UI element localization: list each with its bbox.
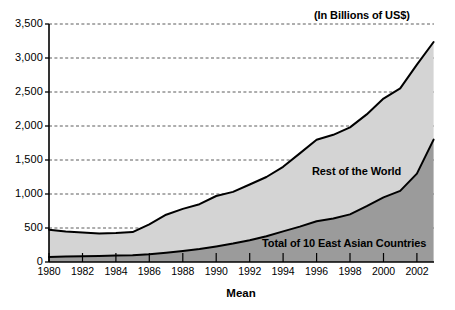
units-note: (In Billions of US$) (314, 10, 410, 21)
series-label-total-of-10-east-asian-countries: Total of 10 East Asian Countries (262, 238, 426, 249)
y-tick-label-2000: 2,000 (0, 120, 43, 131)
y-tick-label-2500: 2,500 (0, 86, 43, 97)
y-tick-label-3500: 3,500 (0, 18, 43, 29)
y-tick-label-500: 500 (0, 222, 43, 233)
y-tick-label-1500: 1,500 (0, 154, 43, 165)
chart-canvas (0, 0, 455, 310)
y-tick-label-1000: 1,000 (0, 188, 43, 199)
series-label-rest-of-the-world: Rest of the World (312, 166, 401, 177)
x-axis-title: Mean (181, 288, 301, 300)
x-tick-label-2002: 2002 (397, 266, 437, 277)
chart-figure: 3,500 3,000 2,500 2,000 1,500 1,000 500 … (0, 0, 455, 310)
y-tick-label-3000: 3,000 (0, 52, 43, 63)
